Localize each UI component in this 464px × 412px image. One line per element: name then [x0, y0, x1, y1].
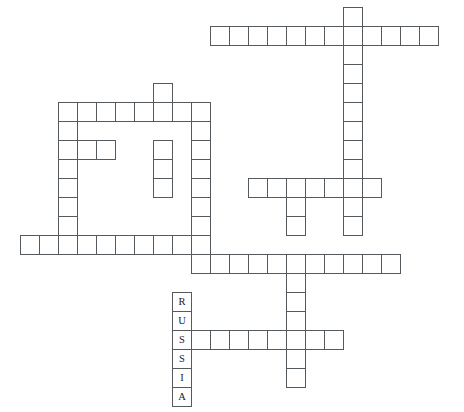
cell-r0c14[interactable]	[286, 26, 306, 46]
cell-r4c5[interactable]	[115, 102, 135, 122]
cell-r11c8[interactable]	[172, 235, 192, 255]
cell-r11c9[interactable]	[191, 235, 211, 255]
cell-r7c2[interactable]	[58, 159, 78, 179]
cell-r6c7[interactable]	[153, 140, 173, 160]
cell-r12c18[interactable]	[362, 254, 382, 274]
cell-r16c13[interactable]	[267, 330, 287, 350]
cell-r4c17[interactable]	[343, 102, 363, 122]
cell-r9c14[interactable]	[286, 197, 306, 217]
cell-r16c14[interactable]	[286, 330, 306, 350]
cell-r11c1[interactable]	[39, 235, 59, 255]
cell-r13c14[interactable]	[286, 273, 306, 293]
cell-r12c17[interactable]	[343, 254, 363, 274]
cell-r4c8[interactable]	[172, 102, 192, 122]
cell-r6c2[interactable]	[58, 140, 78, 160]
cell-r8c14[interactable]	[286, 178, 306, 198]
cell-r11c5[interactable]	[115, 235, 135, 255]
cell-r10c9[interactable]	[191, 216, 211, 236]
cell-r4c6[interactable]	[134, 102, 154, 122]
cell-r15c14[interactable]	[286, 311, 306, 331]
cell-r18c14[interactable]	[286, 368, 306, 388]
cell-r3c7[interactable]	[153, 83, 173, 103]
cell-r0c21[interactable]	[419, 26, 439, 46]
cell-r8c12[interactable]	[248, 178, 268, 198]
cell-r9c9[interactable]	[191, 197, 211, 217]
cell-r8c18[interactable]	[362, 178, 382, 198]
cell-r0c12[interactable]	[248, 26, 268, 46]
cell-r4c7[interactable]	[153, 102, 173, 122]
cell-r8c13[interactable]	[267, 178, 287, 198]
cell-r11c4[interactable]	[96, 235, 116, 255]
cell-r17c8[interactable]: S	[172, 349, 192, 369]
cell-r16c8[interactable]: S	[172, 330, 192, 350]
cell-r12c19[interactable]	[381, 254, 401, 274]
cell-r2c17[interactable]	[343, 64, 363, 84]
cell-r19c8[interactable]: A	[172, 387, 192, 407]
cell-r18c8[interactable]: I	[172, 368, 192, 388]
cell-r5c2[interactable]	[58, 121, 78, 141]
cell-r16c9[interactable]	[191, 330, 211, 350]
cell-r4c3[interactable]	[77, 102, 97, 122]
cell-r12c10[interactable]	[210, 254, 230, 274]
cell-r6c4[interactable]	[96, 140, 116, 160]
cell-r10c14[interactable]	[286, 216, 306, 236]
cell-r8c15[interactable]	[305, 178, 325, 198]
cell-r16c11[interactable]	[229, 330, 249, 350]
cell-r1c17[interactable]	[343, 45, 363, 65]
cell-r5c9[interactable]	[191, 121, 211, 141]
cell-r12c16[interactable]	[324, 254, 344, 274]
cell-r15c8[interactable]: U	[172, 311, 192, 331]
cell-r12c9[interactable]	[191, 254, 211, 274]
cell-r6c17[interactable]	[343, 140, 363, 160]
cell-r5c17[interactable]	[343, 121, 363, 141]
cell-r0c20[interactable]	[400, 26, 420, 46]
cell-r8c7[interactable]	[153, 178, 173, 198]
cell-r0c16[interactable]	[324, 26, 344, 46]
cell-r11c6[interactable]	[134, 235, 154, 255]
cell-r16c10[interactable]	[210, 330, 230, 350]
cell-r11c3[interactable]	[77, 235, 97, 255]
cell-r7c7[interactable]	[153, 159, 173, 179]
cell-r12c14[interactable]	[286, 254, 306, 274]
cell-r9c17[interactable]	[343, 197, 363, 217]
cell-r12c13[interactable]	[267, 254, 287, 274]
cell-r6c3[interactable]	[77, 140, 97, 160]
cell-r14c14[interactable]	[286, 292, 306, 312]
cell-r11c0[interactable]	[20, 235, 40, 255]
cell-r10c17[interactable]	[343, 216, 363, 236]
cell-r12c15[interactable]	[305, 254, 325, 274]
cell-r0c19[interactable]	[381, 26, 401, 46]
cell-r11c2[interactable]	[58, 235, 78, 255]
cell-r0c18[interactable]	[362, 26, 382, 46]
cell-r16c16[interactable]	[324, 330, 344, 350]
cell-r8c17[interactable]	[343, 178, 363, 198]
cell-r6c9[interactable]	[191, 140, 211, 160]
cell-r7c9[interactable]	[191, 159, 211, 179]
cell-r16c15[interactable]	[305, 330, 325, 350]
cell-r0c17[interactable]	[343, 26, 363, 46]
cell-r8c16[interactable]	[324, 178, 344, 198]
cell-r11c7[interactable]	[153, 235, 173, 255]
cell-r4c2[interactable]	[58, 102, 78, 122]
cell-r16c12[interactable]	[248, 330, 268, 350]
cell-r3c17[interactable]	[343, 83, 363, 103]
cell-r8c2[interactable]	[58, 178, 78, 198]
cell-r0c15[interactable]	[305, 26, 325, 46]
crossword-grid: RUSSIA	[0, 0, 464, 412]
cell-r4c9[interactable]	[191, 102, 211, 122]
cell-r8c9[interactable]	[191, 178, 211, 198]
cell-rm1c17[interactable]	[343, 7, 363, 27]
cell-r0c13[interactable]	[267, 26, 287, 46]
cell-r17c14[interactable]	[286, 349, 306, 369]
cell-r10c2[interactable]	[58, 216, 78, 236]
cell-r12c11[interactable]	[229, 254, 249, 274]
cell-r7c17[interactable]	[343, 159, 363, 179]
cell-r0c11[interactable]	[229, 26, 249, 46]
cell-r12c12[interactable]	[248, 254, 268, 274]
cell-r4c4[interactable]	[96, 102, 116, 122]
cell-r0c10[interactable]	[210, 26, 230, 46]
cell-r9c2[interactable]	[58, 197, 78, 217]
cell-r14c8[interactable]: R	[172, 292, 192, 312]
